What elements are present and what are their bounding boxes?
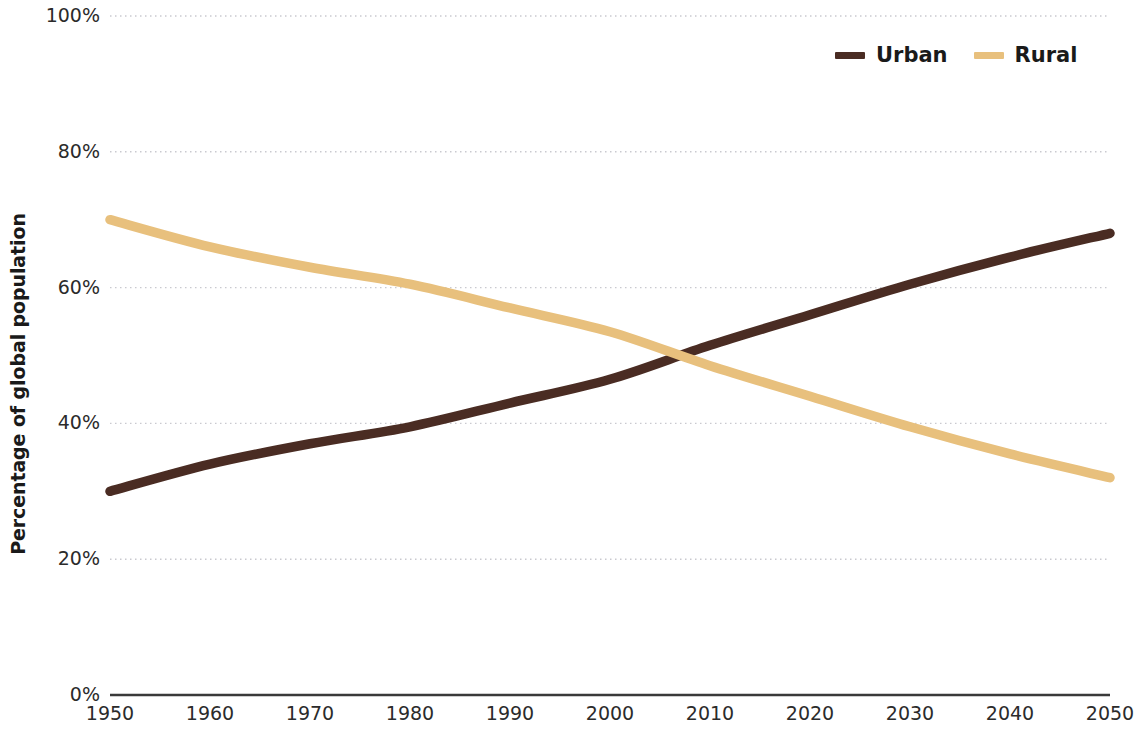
x-tick-label: 1980 [365,702,455,724]
x-tick-label: 2000 [565,702,655,724]
y-tick-label: 40% [26,411,100,433]
data-series [110,220,1110,492]
legend-label: Rural [1015,43,1078,67]
y-tick-label: 20% [26,547,100,569]
x-tick-label: 2020 [765,702,855,724]
legend-item-urban[interactable]: Urban [835,43,948,67]
y-tick-label: 100% [26,4,100,26]
series-line-rural [110,220,1110,478]
x-tick-label: 2050 [1065,702,1138,724]
x-tick-label: 1960 [165,702,255,724]
gridlines [110,16,1110,559]
x-tick-label: 1990 [465,702,555,724]
series-line-urban [110,233,1110,491]
y-tick-label: 60% [26,276,100,298]
x-tick-label: 1970 [265,702,355,724]
legend-line-swatch-icon [974,52,1004,59]
x-tick-label: 2030 [865,702,955,724]
x-tick-label: 1950 [65,702,155,724]
legend-label: Urban [876,43,948,67]
chart-legend: UrbanRural [835,43,1077,67]
x-tick-label: 2040 [965,702,1055,724]
x-tick-label: 2010 [665,702,755,724]
legend-line-swatch-icon [835,52,865,59]
legend-item-rural[interactable]: Rural [974,43,1078,67]
y-tick-label: 80% [26,140,100,162]
